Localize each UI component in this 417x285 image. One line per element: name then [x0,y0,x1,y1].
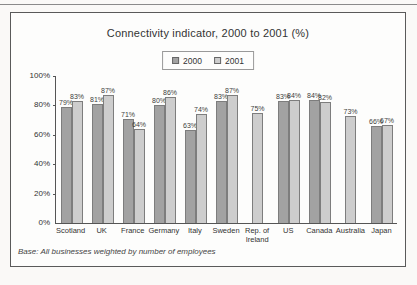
value-label-2001-australia: 73% [343,108,357,116]
category-group-australia: 73% [335,76,366,223]
value-label-2001-us: 84% [287,92,301,100]
value-label-2001-france: 64% [132,121,146,129]
bar-2000-germany: 80% [154,105,165,223]
bar-2000-france: 71% [123,119,134,223]
bar-2001-australia: 73% [345,116,356,223]
x-label-australia: Australia [335,226,366,236]
category-group-uk: 81%87% [87,76,118,223]
value-label-2001-uk: 87% [101,87,115,95]
bar-2001-sweden: 87% [227,95,238,223]
category-group-france: 71%64% [118,76,149,223]
bar-2000-italy: 63% [185,130,196,223]
value-label-2001-japan: 67% [380,117,394,125]
category-group-japan: 66%67% [366,76,397,223]
category-group-germany: 80%86% [149,76,180,223]
legend-swatch-2000-icon [172,57,179,64]
bar-2001-canada: 82% [320,102,331,223]
bar-2001-uk: 87% [103,95,114,223]
x-axis-labels: ScotlandUKFranceGermanyItalySwedenRep. o… [55,226,397,244]
bar-2001-us: 84% [289,100,300,223]
value-label-2001-canada: 82% [318,94,332,102]
plot-area: 79%83%81%87%71%64%80%86%63%74%83%87%75%8… [55,76,397,224]
bar-2001-japan: 67% [382,125,393,223]
x-label-japan: Japan [366,226,397,236]
legend-swatch-2001-icon [214,57,221,64]
category-group-scotland: 79%83% [56,76,87,223]
y-tick-label-60: 60% [34,131,50,139]
bar-2000-us: 83% [278,101,289,223]
y-tick-label-80: 80% [34,101,50,109]
bar-2000-japan: 66% [371,126,382,223]
x-label-sweden: Sweden [210,226,241,236]
category-group-italy: 63%74% [180,76,211,223]
value-label-2001-germany: 86% [163,89,177,97]
bar-2000-canada: 84% [309,100,320,223]
legend-item-2001: 2001 [214,56,244,66]
x-label-germany: Germany [148,226,179,236]
bar-2001-germany: 86% [165,97,176,223]
legend-label-2001: 2001 [225,56,244,66]
value-label-2001-italy: 74% [194,106,208,114]
y-tick-label-40: 40% [34,160,50,168]
y-tick-mark-20 [53,194,56,195]
y-tick-label-100: 100% [30,72,50,80]
bar-2001-italy: 74% [196,114,207,223]
y-tick-label-20: 20% [34,190,50,198]
chart-title: Connectivity indicator, 2000 to 2001 (%) [11,27,405,39]
value-label-2001-sweden: 87% [225,87,239,95]
category-group-canada: 84%82% [304,76,335,223]
chart-frame: Connectivity indicator, 2000 to 2001 (%)… [10,12,406,267]
y-tick-mark-60 [53,135,56,136]
x-label-rep-of-ireland: Rep. of Ireland [242,226,273,244]
x-label-canada: Canada [304,226,335,236]
y-tick-mark-100 [53,76,56,77]
bars-row: 79%83%81%87%71%64%80%86%63%74%83%87%75%8… [56,76,397,223]
legend: 2000 2001 [162,51,254,70]
y-tick-label-0: 0% [38,219,50,227]
base-note: Base: All businesses weighted by number … [18,247,216,256]
y-tick-mark-40 [53,164,56,165]
bar-2000-scotland: 79% [61,107,72,223]
category-group-us: 83%84% [273,76,304,223]
page-top-rule [0,4,417,5]
legend-label-2000: 2000 [183,56,202,66]
x-label-italy: Italy [179,226,210,236]
x-label-france: France [117,226,148,236]
x-label-uk: UK [86,226,117,236]
bar-2000-sweden: 83% [216,101,227,223]
x-label-us: US [273,226,304,236]
category-group-sweden: 83%87% [211,76,242,223]
legend-item-2000: 2000 [172,56,202,66]
value-label-2001-rep-of-ireland: 75% [250,105,264,113]
bar-2001-scotland: 83% [72,101,83,223]
bar-2001-rep-of-ireland: 75% [252,113,263,223]
value-label-2001-scotland: 83% [70,93,84,101]
category-group-rep-of-ireland: 75% [242,76,273,223]
x-label-scotland: Scotland [55,226,86,236]
bar-2001-france: 64% [134,129,145,223]
y-tick-mark-80 [53,105,56,106]
bar-2000-uk: 81% [92,104,103,223]
value-label-2000-france: 71% [121,111,135,119]
